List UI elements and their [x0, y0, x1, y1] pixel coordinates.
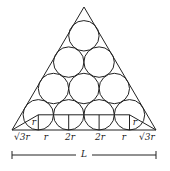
- circle: [84, 47, 114, 77]
- base-label: r: [44, 132, 48, 142]
- length-label: L: [81, 149, 87, 159]
- circle: [69, 21, 99, 51]
- inner-label-r-left: r: [32, 117, 36, 127]
- base-label: 2r: [65, 132, 75, 142]
- circle: [53, 47, 83, 77]
- base-label: √3r: [14, 132, 30, 142]
- base-label: 2r: [95, 132, 105, 142]
- circle: [69, 73, 99, 103]
- diagram-canvas: [0, 0, 170, 171]
- inner-label-r-right: r: [133, 117, 137, 127]
- circle: [99, 73, 129, 103]
- base-label: √3r: [139, 132, 155, 142]
- base-label: r: [122, 132, 126, 142]
- circle: [38, 73, 68, 103]
